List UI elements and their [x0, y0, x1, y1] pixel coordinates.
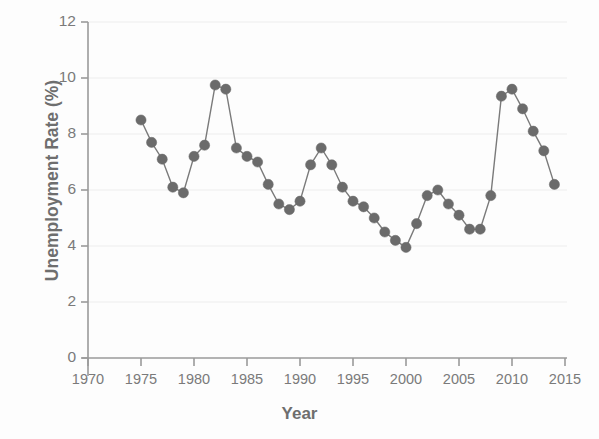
- data-point: [327, 160, 337, 170]
- data-point: [359, 202, 369, 212]
- data-point: [316, 143, 326, 153]
- data-point: [337, 182, 347, 192]
- data-point: [528, 126, 538, 136]
- data-point: [390, 235, 400, 245]
- data-point: [200, 140, 210, 150]
- data-point: [295, 196, 305, 206]
- data-point: [507, 84, 517, 94]
- data-point: [412, 219, 422, 229]
- data-point: [168, 182, 178, 192]
- data-point: [274, 199, 284, 209]
- data-point: [539, 146, 549, 156]
- data-point: [210, 80, 220, 90]
- data-point: [147, 137, 157, 147]
- data-point: [380, 227, 390, 237]
- plot-area: [0, 0, 599, 439]
- data-point: [242, 151, 252, 161]
- data-point: [306, 160, 316, 170]
- series-line: [141, 85, 554, 247]
- data-point: [422, 191, 432, 201]
- data-point: [486, 191, 496, 201]
- data-line: [141, 85, 554, 247]
- data-point: [221, 84, 231, 94]
- data-point: [401, 242, 411, 252]
- data-point: [263, 179, 273, 189]
- data-point: [443, 199, 453, 209]
- data-point: [369, 213, 379, 223]
- data-point: [284, 205, 294, 215]
- data-point: [475, 224, 485, 234]
- data-point: [496, 91, 506, 101]
- data-point: [518, 104, 528, 114]
- data-point: [157, 154, 167, 164]
- chart-figure: Unemployment Rate (%) Year 024681012 197…: [0, 0, 599, 439]
- data-point: [549, 179, 559, 189]
- data-point: [253, 157, 263, 167]
- data-point: [433, 185, 443, 195]
- data-point: [465, 224, 475, 234]
- series-points: [136, 80, 560, 253]
- data-point: [454, 210, 464, 220]
- data-point: [178, 188, 188, 198]
- data-point: [348, 196, 358, 206]
- data-point: [136, 115, 146, 125]
- data-point: [189, 151, 199, 161]
- data-point: [231, 143, 241, 153]
